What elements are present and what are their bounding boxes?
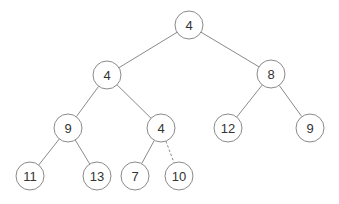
tree-edges — [39, 32, 302, 165]
tree-edge — [142, 140, 155, 163]
tree-edge-dashed — [166, 141, 174, 163]
node-label: 10 — [172, 169, 186, 184]
tree-node: 9 — [296, 114, 324, 142]
tree-edge — [76, 86, 98, 116]
node-label: 13 — [90, 169, 104, 184]
node-label: 9 — [64, 121, 71, 136]
node-label: 11 — [23, 169, 37, 184]
node-label: 8 — [267, 67, 274, 82]
tree-edge — [39, 139, 60, 165]
tree-edge — [279, 85, 302, 116]
tree-diagram: 448941291113710 — [0, 0, 339, 204]
node-label: 4 — [185, 18, 192, 33]
tree-edge — [75, 140, 90, 164]
tree-node: 9 — [54, 114, 82, 142]
tree-node: 11 — [16, 162, 44, 190]
tree-nodes: 448941291113710 — [16, 11, 324, 190]
tree-node: 4 — [175, 11, 203, 39]
node-label: 4 — [157, 121, 164, 136]
tree-node: 8 — [257, 60, 285, 88]
node-label: 9 — [306, 121, 313, 136]
tree-node: 10 — [165, 162, 193, 190]
tree-edge — [201, 32, 259, 67]
node-label: 7 — [131, 169, 138, 184]
node-label: 12 — [221, 121, 235, 136]
tree-edge — [237, 85, 263, 117]
node-label: 4 — [103, 68, 110, 83]
tree-edge — [117, 85, 151, 118]
tree-edge — [119, 32, 177, 67]
tree-node: 12 — [214, 114, 242, 142]
tree-node: 4 — [93, 61, 121, 89]
tree-node: 7 — [121, 162, 149, 190]
tree-node: 4 — [147, 114, 175, 142]
tree-node: 13 — [83, 162, 111, 190]
